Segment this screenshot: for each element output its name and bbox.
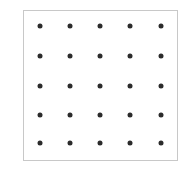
grid-dot — [159, 84, 164, 89]
grid-dot — [68, 84, 73, 89]
grid-dot — [98, 141, 103, 146]
grid-dot — [98, 113, 103, 118]
grid-dot — [38, 113, 43, 118]
grid-dot — [68, 113, 73, 118]
grid-dot — [68, 24, 73, 29]
grid-dot — [68, 141, 73, 146]
grid-dot — [128, 24, 133, 29]
grid-dot — [38, 141, 43, 146]
grid-dot — [128, 113, 133, 118]
grid-dot — [128, 54, 133, 59]
grid-dot — [128, 84, 133, 89]
grid-dot — [38, 24, 43, 29]
grid-dot — [98, 24, 103, 29]
grid-dot — [98, 54, 103, 59]
grid-dot — [159, 54, 164, 59]
grid-dot — [159, 24, 164, 29]
grid-dot — [38, 54, 43, 59]
grid-dot — [38, 84, 43, 89]
grid-dot — [68, 54, 73, 59]
grid-dot — [98, 84, 103, 89]
grid-dot — [159, 141, 164, 146]
grid-dot — [159, 113, 164, 118]
grid-dot — [128, 141, 133, 146]
